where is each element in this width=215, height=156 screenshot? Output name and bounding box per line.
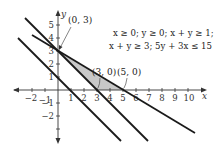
inequalities-line-1: x ≥ 0; y ≥ 0; x + y ≥ 1;	[113, 28, 214, 38]
x-tick-label: 1	[68, 93, 73, 103]
x-axis-left-arrow-icon	[13, 88, 19, 93]
pointer-5-0	[124, 78, 127, 88]
y-tick-label: 5	[49, 20, 54, 30]
y-axis-arrow-icon	[56, 10, 61, 16]
inequalities-line-2: x + y ≥ 3; 5y + 3x ≤ 15	[109, 41, 212, 51]
y-tick-label: −1	[41, 98, 54, 108]
x-tick-label: 10	[184, 93, 195, 103]
arrowhead-icon	[59, 45, 63, 50]
pointer-0-3	[60, 27, 71, 48]
x-tick-label: 7	[146, 93, 151, 103]
vertex-label-0-3: (0, 3)	[68, 15, 92, 25]
x-tick-label: 8	[159, 93, 164, 103]
x-tick-label: 9	[172, 93, 177, 103]
feasible-region-graph: −2 −1 1 2 3 4 5 6 7 8 9 10 x 5 4 3 2 1 −…	[0, 0, 215, 156]
vertex-label-3-0: (3, 0)	[92, 67, 116, 77]
y-tick-label: −2	[41, 111, 54, 121]
x-tick-label: 5	[120, 93, 125, 103]
y-axis-down-arrow-icon	[56, 138, 61, 144]
y-axis-label: y	[60, 9, 67, 19]
x-tick-label: −2	[25, 93, 38, 103]
vertex-label-5-0: (5, 0)	[117, 67, 141, 77]
x-axis-label: x	[202, 91, 207, 101]
x-tick-label: 3	[94, 93, 99, 103]
y-tick-label: 2	[49, 59, 54, 69]
